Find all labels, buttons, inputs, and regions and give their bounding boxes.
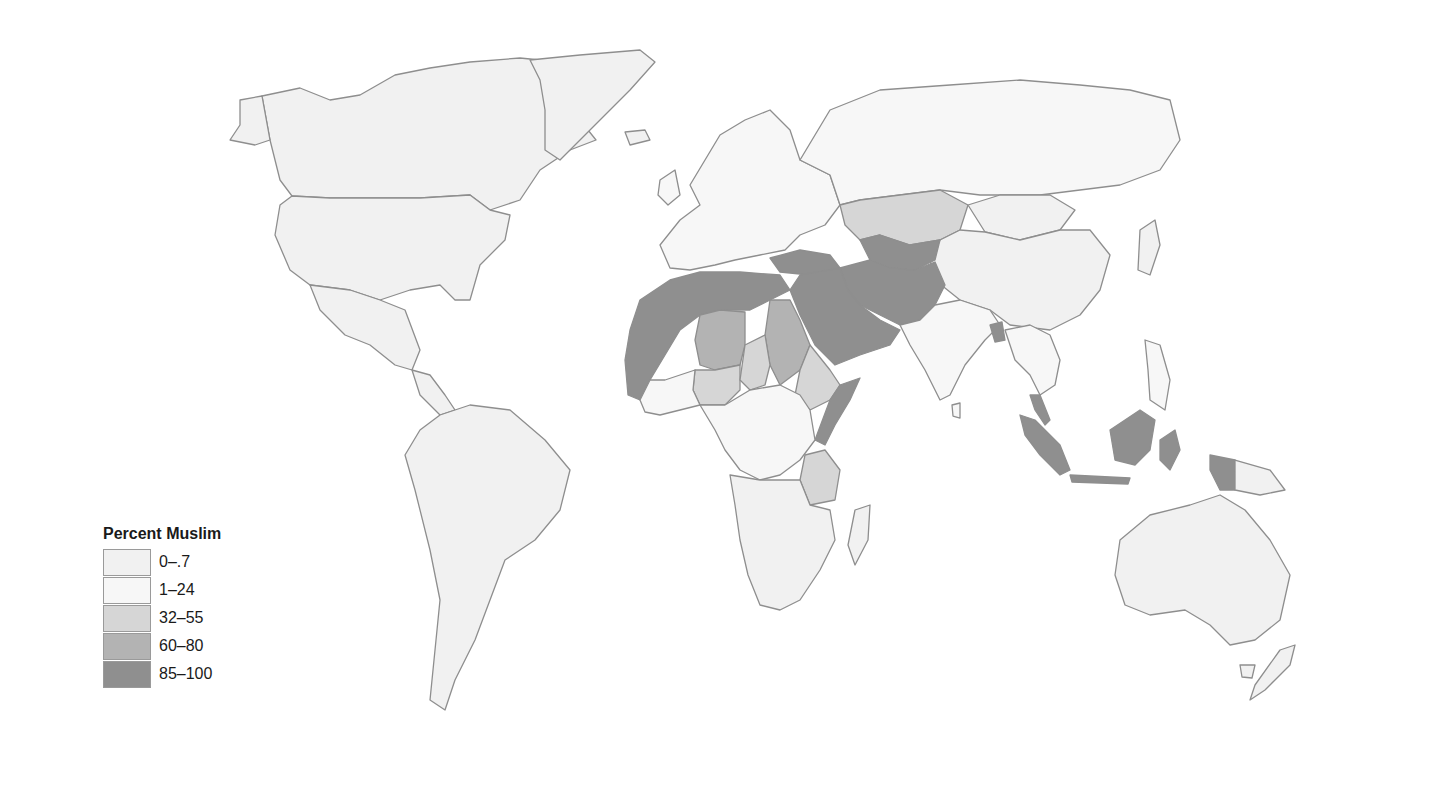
legend-item: 60–80: [103, 632, 221, 660]
legend-item: 0–.7: [103, 548, 221, 576]
region-japan: [1138, 220, 1160, 275]
region-central-america: [412, 370, 455, 415]
region-philippines: [1145, 340, 1170, 410]
map-legend: Percent Muslim 0–.7 1–24 32–55 60–80 85–…: [103, 525, 221, 688]
legend-label: 60–80: [159, 637, 204, 655]
region-usa: [275, 195, 510, 300]
region-russia: [800, 80, 1180, 205]
region-new-zealand: [1250, 645, 1295, 700]
legend-label: 1–24: [159, 581, 195, 599]
region-borneo: [1110, 410, 1155, 465]
region-australia: [1115, 495, 1290, 645]
region-bangladesh: [990, 322, 1005, 342]
legend-item: 32–55: [103, 604, 221, 632]
region-south-america: [405, 405, 570, 710]
legend-item: 1–24: [103, 576, 221, 604]
legend-swatch-4: [103, 661, 151, 688]
region-uk: [658, 170, 680, 205]
legend-swatch-3: [103, 633, 151, 660]
legend-label: 32–55: [159, 609, 204, 627]
legend-swatch-1: [103, 577, 151, 604]
region-mexico: [310, 285, 420, 370]
legend-label: 85–100: [159, 665, 212, 683]
legend-swatch-0: [103, 549, 151, 576]
region-new-guinea-west: [1210, 455, 1235, 490]
legend-item: 85–100: [103, 660, 221, 688]
region-iceland: [625, 130, 650, 145]
region-niger-chad: [695, 310, 745, 370]
region-java: [1070, 475, 1130, 484]
legend-title: Percent Muslim: [103, 525, 221, 543]
region-madagascar: [848, 505, 870, 565]
region-sulawesi: [1160, 430, 1180, 470]
legend-swatch-2: [103, 605, 151, 632]
region-indochina: [1005, 325, 1060, 395]
region-tasmania: [1240, 665, 1255, 678]
region-sri-lanka: [952, 403, 960, 418]
region-nigeria: [693, 365, 740, 405]
region-europe: [660, 110, 840, 270]
legend-label: 0–.7: [159, 553, 190, 571]
region-new-guinea-east: [1235, 460, 1285, 495]
